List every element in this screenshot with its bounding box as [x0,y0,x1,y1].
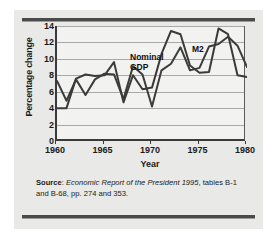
x-axis-tick-labels: 19601965197019751980 [14,145,263,159]
x-tickmark-1970 [150,141,151,144]
x-tick-1960: 1960 [35,145,75,155]
source-note: Source: Economic Report of the President… [36,178,248,199]
y-tick-12: 12 [32,38,54,46]
x-tickmark-1980 [245,141,246,144]
series-annotation-m2: M2 [192,44,204,54]
plot-area [55,26,245,141]
y-tick-0: 0 [32,137,54,145]
x-tick-1965: 1965 [83,145,123,155]
x-tick-1970: 1970 [130,145,170,155]
series-annotation-nominal-gdp: Nominal GDP [130,52,164,72]
figure-panel: Percentage change 02468101214 1960196519… [14,10,263,229]
y-tick-2: 2 [32,121,54,129]
top-rule [22,18,255,22]
x-tick-1980: 1980 [225,145,265,155]
source-label: Source [36,178,62,187]
source-title: Economic Report of the President 1995 [66,178,199,187]
y-tick-6: 6 [32,88,54,96]
y-tick-8: 8 [32,71,54,79]
y-tick-4: 4 [32,104,54,112]
x-tickmark-1965 [103,141,104,144]
series-lines [57,26,247,141]
bottom-rule [22,215,255,219]
y-tick-14: 14 [32,22,54,30]
y-tick-10: 10 [32,55,54,63]
x-tick-1975: 1975 [178,145,218,155]
x-tickmark-1960 [55,141,56,144]
x-tickmark-1975 [198,141,199,144]
y-axis-tick-labels: 02468101214 [32,26,54,141]
x-axis-label: Year [55,159,245,169]
chart-plot-block: Percentage change 02468101214 1960196519… [14,26,263,166]
